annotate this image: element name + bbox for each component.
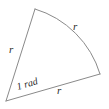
radius-label-arc: r <box>73 21 77 32</box>
arc-path <box>35 9 100 74</box>
radius-label-left: r <box>9 44 13 55</box>
radius-label-bottom: r <box>57 85 61 96</box>
sector-figure: r r r 1 rad <box>0 0 109 109</box>
sector-drawing <box>0 0 109 109</box>
